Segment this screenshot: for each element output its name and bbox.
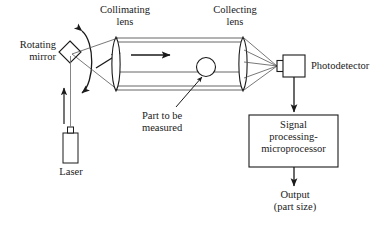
label-collecting-lens: Collecting lens [196,4,274,27]
photodetector [277,55,305,77]
part-callout-leader [176,77,202,107]
laser-source [63,127,78,163]
label-laser: Laser [48,166,94,178]
label-collimating-lens: Collimating lens [85,4,165,27]
laser-beam-path [64,56,71,127]
converging-rays [244,38,277,90]
label-part-to-be-measured: Part to be measured [142,110,228,133]
diverging-rays [72,38,118,90]
label-rotating-mirror: Rotating mirror [2,39,56,62]
beam-tube [116,38,243,90]
collimating-lens [112,37,120,91]
label-signal-processing: Signal processing- microprocessor [249,119,338,156]
part-to-be-measured [197,58,216,77]
rotation-arc-icon [82,31,92,93]
collecting-lens [239,37,247,91]
label-output: Output (part size) [252,189,338,212]
optical-measurement-diagram: Rotating mirror Collimating lens Collect… [0,0,381,226]
label-photodetector: Photodetector [311,60,381,72]
